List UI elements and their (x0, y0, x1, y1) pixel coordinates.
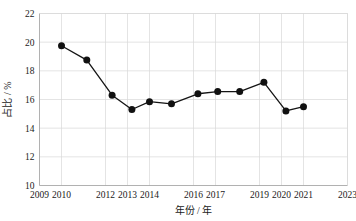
data-point: 2010: 19.75 (58, 42, 65, 49)
gridlines (40, 14, 348, 186)
data-point: 2017.1: 16.55 (214, 88, 221, 95)
x-tick-label: 2023 (338, 190, 356, 200)
data-point: 2014: 15.85 (146, 98, 153, 105)
x-tick-label: 2020 (272, 190, 291, 200)
x-tick-label: 2009 (30, 190, 49, 200)
y-tick-labels: 10121416182022 (25, 9, 35, 191)
data-line (62, 46, 304, 111)
y-tick-label: 14 (25, 124, 35, 134)
y-tick-label: 20 (25, 38, 35, 48)
x-tick-label: 2021 (294, 190, 313, 200)
y-tick-label: 16 (25, 95, 35, 105)
data-point: 2013.2: 15.3 (128, 106, 135, 113)
data-point: 2011.15: 18.75 (83, 57, 90, 64)
x-tick-label: 2013 (118, 190, 137, 200)
x-tick-label: 2017 (206, 190, 225, 200)
line-chart: 1012141618202220092010201220132014201620… (0, 0, 356, 221)
y-tick-label: 12 (25, 152, 35, 162)
data-point: 2015: 15.7 (168, 100, 175, 107)
x-tick-label: 2014 (140, 190, 159, 200)
data-points: 2010: 19.752011.15: 18.752012.3: 16.3201… (58, 42, 307, 114)
x-tick-labels: 2009201020122013201420162017201920202021… (30, 190, 356, 200)
chart-container: 1012141618202220092010201220132014201620… (0, 0, 356, 221)
y-axis-title: 占比 / % (1, 81, 13, 117)
data-point: 2019.2: 17.2 (260, 79, 267, 86)
y-tick-label: 22 (25, 9, 35, 19)
y-tick-label: 18 (25, 66, 35, 76)
data-point: 2012.3: 16.3 (109, 92, 116, 99)
x-tick-label: 2010 (52, 190, 71, 200)
data-point: 2018.1: 16.55 (236, 88, 243, 95)
x-tick-label: 2016 (184, 190, 203, 200)
data-point: 2021: 15.5 (300, 103, 307, 110)
x-tick-label: 2012 (96, 190, 115, 200)
x-axis-title: 年份 / 年 (175, 204, 213, 216)
data-point: 2016.2: 16.4 (194, 90, 201, 97)
x-tick-label: 2019 (250, 190, 269, 200)
data-point: 2020.2: 15.2 (282, 107, 289, 114)
